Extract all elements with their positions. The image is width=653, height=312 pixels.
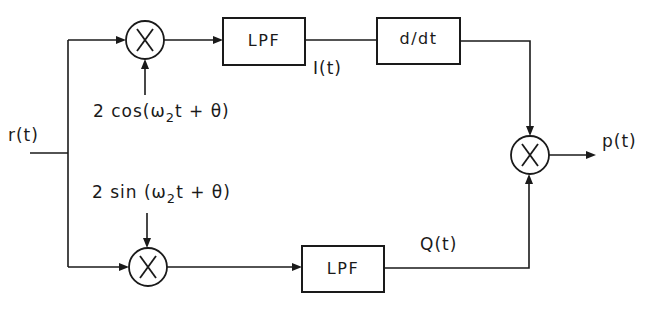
output-multiplier	[511, 136, 549, 174]
arrow-head-icon	[143, 238, 151, 248]
upper-multiplier	[126, 21, 164, 59]
arrow-head-icon	[526, 126, 534, 136]
upper-reference-subscript: 2	[166, 110, 175, 125]
upper-reference-label: 2 cos(ω2t + θ)	[93, 101, 230, 121]
lower-reference-prefix: 2 sin (ω	[92, 182, 167, 202]
lower-reference-subscript: 2	[167, 191, 176, 206]
arrow-head-icon	[292, 263, 302, 271]
upper-reference-prefix: 2 cos(ω	[93, 101, 166, 121]
upper-lpf-label: LPF	[223, 31, 305, 50]
arrow-head-icon	[213, 36, 223, 44]
arrow-head-icon	[119, 263, 129, 271]
lower-reference-label: 2 sin (ω2t + θ)	[92, 182, 231, 202]
i-signal-label: I(t)	[313, 58, 342, 78]
derivative-label: d/dt	[377, 29, 460, 48]
upper-reference-suffix: t + θ)	[175, 101, 230, 121]
arrow-head-icon	[116, 36, 126, 44]
lower-multiplier	[129, 248, 167, 286]
arrow-head-icon	[525, 174, 533, 184]
arrow-head-icon	[141, 59, 149, 69]
q-signal-wire	[384, 178, 529, 268]
derivative-output-wire	[460, 41, 530, 132]
lower-lpf-label: LPF	[302, 259, 384, 278]
input-label: r(t)	[8, 125, 39, 145]
arrow-head-icon	[586, 151, 596, 159]
lower-reference-suffix: t + θ)	[176, 182, 231, 202]
q-signal-label: Q(t)	[420, 234, 457, 254]
output-label: p(t)	[602, 131, 637, 151]
